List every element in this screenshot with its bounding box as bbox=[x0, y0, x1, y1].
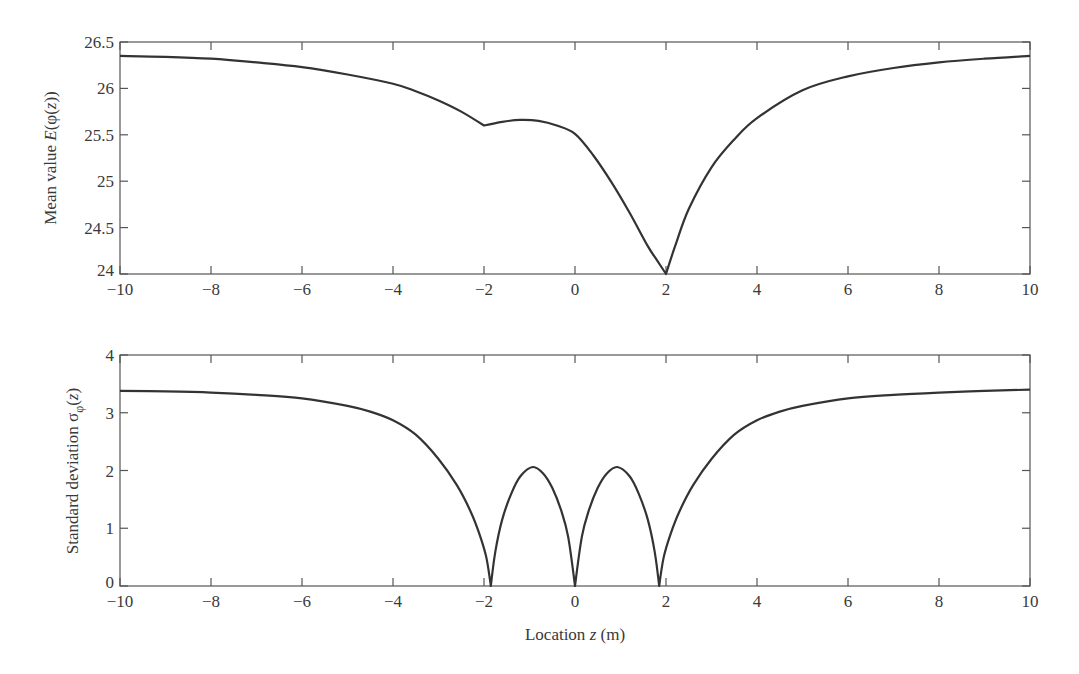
mean-y-axis-label: Mean value E(φ(z)) bbox=[41, 91, 60, 225]
std-ticks bbox=[120, 355, 1030, 586]
figure: −10−8−6−4−202468102424.52525.52626.5 Mea… bbox=[0, 0, 1079, 674]
tick-label: 0 bbox=[571, 280, 580, 299]
tick-label: −6 bbox=[293, 280, 311, 299]
tick-label: 10 bbox=[1022, 592, 1039, 611]
tick-label: 8 bbox=[935, 280, 944, 299]
std-y-axis-label: Standard deviation σφ(z) bbox=[63, 388, 86, 554]
tick-label: 6 bbox=[844, 280, 853, 299]
tick-label: −8 bbox=[202, 280, 220, 299]
tick-label: −6 bbox=[293, 592, 311, 611]
mean-ticks bbox=[120, 42, 1030, 274]
tick-label: 24 bbox=[97, 261, 115, 280]
tick-label: 3 bbox=[106, 404, 115, 423]
tick-label: 24.5 bbox=[84, 219, 114, 238]
mean-tick-labels: −10−8−6−4−202468102424.52525.52626.5 bbox=[84, 33, 1038, 299]
tick-label: −10 bbox=[107, 280, 134, 299]
tick-label: 1 bbox=[106, 519, 115, 538]
tick-label: 4 bbox=[106, 346, 115, 365]
std-plot-frame bbox=[120, 355, 1030, 586]
tick-label: 0 bbox=[571, 592, 580, 611]
tick-label: 26 bbox=[97, 79, 114, 98]
mean-plot-frame bbox=[120, 42, 1030, 274]
tick-label: −2 bbox=[475, 280, 493, 299]
tick-label: −4 bbox=[384, 280, 403, 299]
tick-label: 10 bbox=[1022, 280, 1039, 299]
tick-label: 8 bbox=[935, 592, 944, 611]
mean-value-panel: −10−8−6−4−202468102424.52525.52626.5 Mea… bbox=[41, 33, 1039, 299]
mean-value-curve bbox=[120, 56, 1030, 274]
tick-label: 4 bbox=[753, 280, 762, 299]
tick-label: −4 bbox=[384, 592, 403, 611]
tick-label: 2 bbox=[662, 280, 671, 299]
tick-label: 2 bbox=[662, 592, 671, 611]
tick-label: −2 bbox=[475, 592, 493, 611]
tick-label: 25.5 bbox=[84, 126, 114, 145]
x-axis-label: Location z (m) bbox=[525, 625, 625, 644]
std-dev-curve bbox=[120, 390, 1030, 586]
std-dev-panel: −10−8−6−4−2024681001234 Standard deviati… bbox=[63, 346, 1039, 611]
tick-label: −10 bbox=[107, 592, 134, 611]
std-tick-labels: −10−8−6−4−2024681001234 bbox=[106, 346, 1039, 611]
tick-label: 26.5 bbox=[84, 33, 114, 52]
tick-label: 2 bbox=[106, 462, 115, 481]
tick-label: 25 bbox=[97, 172, 114, 191]
tick-label: −8 bbox=[202, 592, 220, 611]
tick-label: 0 bbox=[106, 573, 115, 592]
tick-label: 4 bbox=[753, 592, 762, 611]
tick-label: 6 bbox=[844, 592, 853, 611]
